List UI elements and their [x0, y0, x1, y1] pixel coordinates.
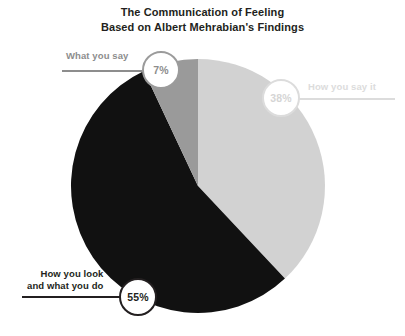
leader-line-what-you-say	[62, 70, 150, 72]
leader-line-how-you-look	[22, 296, 125, 298]
pie-chart: What you say 7% How you say it 38% How y…	[0, 0, 405, 336]
value-badge-how-you-look: 55%	[119, 278, 157, 316]
value-badge-how-you-say-it: 38%	[262, 79, 300, 117]
leader-line-how-you-say-it	[299, 98, 395, 100]
value-badge-what-you-say: 7%	[142, 51, 180, 89]
callout-label-how-you-look: How you look and what you do	[27, 268, 103, 291]
callout-label-how-you-look-line-2: and what you do	[27, 280, 103, 291]
callout-label-what-you-say: What you say	[66, 50, 128, 62]
callout-label-how-you-look-line-1: How you look	[41, 268, 104, 279]
callout-label-how-you-say-it: How you say it	[308, 81, 376, 93]
